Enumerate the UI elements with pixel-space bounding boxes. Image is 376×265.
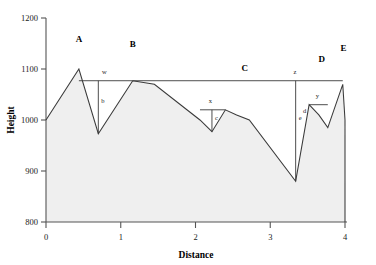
plot-area [46,69,345,222]
height-distance-chart: 800900100011001200 01234 Height Distance… [0,0,376,265]
region-label-E: E [340,43,346,53]
measure-label-x: x [209,97,213,104]
y-tick-label: 1200 [21,13,38,23]
measure-label-b: b [101,97,104,104]
y-tick-label: 900 [25,166,38,176]
measure-label-z: z [293,68,296,75]
chart-container: 800900100011001200 01234 Height Distance… [0,0,376,265]
x-tick-label: 3 [268,232,272,242]
y-axis-ticks: 800900100011001200 [21,13,46,227]
x-tick-label: 2 [193,232,197,242]
y-tick-label: 1100 [21,64,38,74]
measure-label-w: w [102,68,107,75]
measure-label-c: c [215,114,218,121]
region-label-A: A [76,34,83,44]
region-label-C: C [242,63,249,73]
measure-label-e: e [299,114,302,121]
region-label-D: D [319,54,326,64]
region-label-B: B [130,39,136,49]
profile-area-fill [46,69,345,222]
x-tick-label: 0 [44,232,48,242]
x-axis-title: Distance [179,250,214,260]
y-axis-title: Height [6,105,16,133]
region-labels: ABCDE [76,34,347,73]
x-axis-ticks: 01234 [44,222,348,242]
x-tick-label: 1 [119,232,123,242]
measure-label-y: y [316,92,320,99]
y-tick-label: 1000 [21,115,38,125]
measure-label-d: d [303,107,307,114]
x-tick-label: 4 [343,232,348,242]
y-tick-label: 800 [25,217,38,227]
